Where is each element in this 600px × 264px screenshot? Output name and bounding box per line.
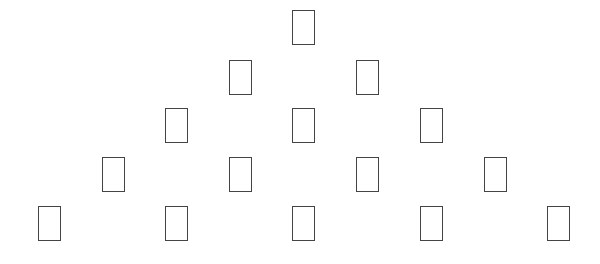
diagram-canvas — [0, 0, 600, 264]
rectangle-node — [420, 206, 443, 241]
rectangle-node — [38, 206, 61, 241]
rectangle-node — [356, 60, 379, 95]
rectangle-node — [229, 157, 252, 192]
rectangle-node — [356, 157, 379, 192]
rectangle-node — [484, 157, 507, 192]
rectangle-node — [292, 206, 315, 241]
rectangle-node — [292, 10, 315, 45]
rectangle-node — [165, 108, 188, 143]
rectangle-node — [547, 206, 570, 241]
rectangle-node — [292, 108, 315, 143]
rectangle-node — [102, 157, 125, 192]
rectangle-node — [420, 108, 443, 143]
rectangle-node — [229, 60, 252, 95]
rectangle-node — [165, 206, 188, 241]
